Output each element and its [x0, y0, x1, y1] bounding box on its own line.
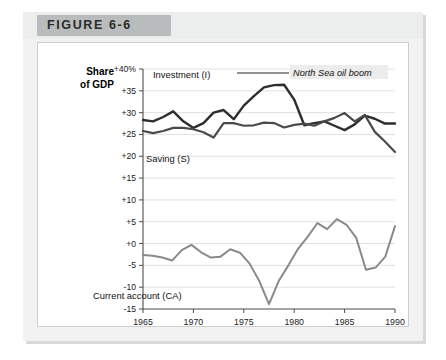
- figure-number-label: FIGURE 6-6: [47, 18, 132, 32]
- grid-lines: [143, 69, 395, 287]
- line-chart: +40%+35+30+25+20+15+10+5+0-5-10-15 19651…: [38, 43, 408, 326]
- data-series-group: [143, 85, 395, 304]
- series-label-investment: Investment (I): [153, 69, 210, 80]
- y-tick-label-25: +25: [121, 129, 136, 139]
- north-sea-annotation-label: North Sea oil boom: [293, 68, 372, 78]
- y-tick-label--5: -5: [128, 260, 136, 270]
- y-tick-label-10: +10: [121, 195, 136, 205]
- x-axis-ticks: 196519701975198019851990: [133, 309, 405, 326]
- y-tick-label-35: +35: [121, 86, 136, 96]
- figure-header-band: FIGURE 6-6: [23, 12, 423, 39]
- y-tick-label-0: +0: [126, 239, 136, 249]
- figure-plate: FIGURE 6-6 +40%+35+30+25+20+15+10+5+0-5-…: [23, 12, 423, 341]
- x-tick-label-1970: 1970: [184, 317, 204, 326]
- y-tick-label--15: -15: [124, 304, 137, 314]
- y-tick-label-20: +20: [121, 151, 136, 161]
- y-axis-title-line2: of GDP: [80, 79, 114, 90]
- x-tick-label-1990: 1990: [385, 317, 405, 326]
- y-axis-ticks: +40%+35+30+25+20+15+10+5+0-5-10-15: [114, 64, 143, 314]
- x-tick-label-1985: 1985: [335, 317, 355, 326]
- x-tick-label-1975: 1975: [234, 317, 254, 326]
- y-tick-label-5: +5: [126, 217, 136, 227]
- y-tick-label-30: +30: [121, 108, 136, 118]
- series-label-saving: Saving (S): [146, 153, 190, 164]
- series-label-current-account: Current account (CA): [93, 290, 182, 301]
- y-tick-label-40: +40%: [114, 64, 137, 74]
- x-tick-label-1965: 1965: [133, 317, 153, 326]
- chart-card: +40%+35+30+25+20+15+10+5+0-5-10-15 19651…: [37, 42, 409, 327]
- x-tick-label-1980: 1980: [284, 317, 304, 326]
- y-tick-label-15: +15: [121, 173, 136, 183]
- y-axis-title-line1: Share: [86, 66, 114, 77]
